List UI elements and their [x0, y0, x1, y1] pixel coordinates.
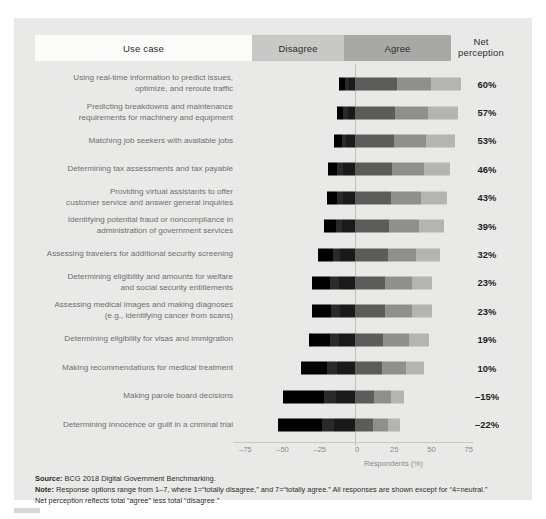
row-label-line: customer service and answer general inqu… — [66, 198, 233, 209]
bar-segment-agree — [355, 248, 388, 261]
bar-segment-agree — [385, 305, 412, 318]
bar-segment-disagree — [339, 276, 355, 289]
row-label-line: Determining eligibility for visas and im… — [64, 334, 233, 345]
row-label: Assessing travelers for additional secur… — [35, 240, 233, 268]
bar-segment-disagree — [331, 305, 340, 318]
bar-segment-agree — [424, 163, 451, 176]
stacked-bar — [318, 248, 440, 261]
row-label-line: Determining tax assessments and tax paya… — [67, 164, 233, 175]
net-perception-value: 19% — [463, 326, 511, 354]
stacked-bar — [312, 305, 433, 318]
bar-segment-disagree — [334, 418, 355, 431]
row-label: Predicting breakdowns and maintenancereq… — [35, 98, 233, 126]
chart-row: Using real-time information to predict i… — [35, 70, 511, 98]
header-disagree: Disagree — [252, 35, 344, 61]
bar-segment-agree — [416, 248, 440, 261]
x-axis-tick: –75 — [239, 445, 252, 454]
stacked-bar — [337, 106, 458, 119]
stacked-bar — [324, 220, 445, 233]
stacked-bar — [328, 163, 450, 176]
bar-segment-disagree — [348, 106, 355, 119]
row-label-line: Assessing medical images and making diag… — [54, 300, 233, 311]
bar-segment-agree — [409, 333, 430, 346]
bar-segment-agree — [388, 418, 400, 431]
row-label-line: Determining eligibility and amounts for … — [67, 272, 233, 283]
header-use-case-label: Use case — [123, 43, 164, 54]
bar-segment-agree — [431, 78, 461, 91]
row-label-line: and social security entitlements — [121, 283, 233, 294]
bar-segment-agree — [392, 163, 423, 176]
row-bar-area — [233, 297, 455, 325]
bar-segment-agree — [355, 106, 395, 119]
row-label-line: Using real-time information to predict i… — [73, 73, 233, 84]
bar-segment-agree — [428, 106, 458, 119]
bar-segment-agree — [355, 134, 394, 147]
net-perception-value: 23% — [463, 269, 511, 297]
x-axis-line — [233, 442, 473, 443]
header-use-case: Use case — [35, 35, 252, 61]
x-axis-tick: 75 — [465, 445, 473, 454]
stacked-bar — [283, 390, 404, 403]
bar-segment-disagree — [334, 134, 341, 147]
bar-segment-agree — [355, 362, 382, 375]
bar-segment-disagree — [330, 333, 339, 346]
source-label: Source: — [35, 474, 63, 483]
row-label-line: Providing virtual assistants to offer — [110, 187, 233, 198]
net-perception-value: –22% — [463, 411, 511, 439]
row-bar-area — [233, 382, 455, 410]
bar-segment-agree — [355, 78, 397, 91]
net-perception-value: 23% — [463, 297, 511, 325]
row-bar-area — [233, 269, 455, 297]
bar-segment-disagree — [327, 362, 337, 375]
row-label-line: Matching job seekers with available jobs — [89, 136, 233, 147]
row-label: Determining eligibility and amounts for … — [35, 269, 233, 297]
methodology-note: Note: Response options range from 1–7, w… — [35, 484, 535, 495]
bar-segment-agree — [374, 390, 390, 403]
chart-row: Matching job seekers with available jobs… — [35, 127, 511, 155]
bar-segment-agree — [391, 191, 421, 204]
bar-segment-disagree — [312, 276, 330, 289]
chart-row: Determining eligibility for visas and im… — [35, 326, 511, 354]
x-axis-title: Respondents (%) — [364, 459, 423, 468]
bar-segment-disagree — [322, 418, 334, 431]
bar-segment-agree — [385, 276, 412, 289]
row-label-line: requirements for machinery and equipment — [79, 113, 233, 124]
x-axis-tick: –50 — [276, 445, 289, 454]
row-bar-area — [233, 326, 455, 354]
row-label: Determining innocence or guilt in a crim… — [35, 411, 233, 439]
stacked-bar — [327, 191, 448, 204]
header-agree-label: Agree — [384, 43, 410, 54]
row-bar-area — [233, 212, 455, 240]
bar-segment-agree — [383, 333, 408, 346]
bar-segment-agree — [382, 362, 406, 375]
row-label-line: administration of government services — [97, 226, 233, 237]
bar-segment-agree — [395, 106, 428, 119]
bar-segment-disagree — [301, 362, 326, 375]
net-perception-value: 46% — [463, 155, 511, 183]
net-perception-note: Net perception reflects total “agree” le… — [35, 495, 535, 506]
header-agree: Agree — [344, 35, 451, 61]
bar-segment-disagree — [283, 390, 323, 403]
bar-segment-disagree — [337, 362, 355, 375]
bar-segment-disagree — [333, 248, 340, 261]
bar-segment-agree — [421, 191, 448, 204]
chart-row: Determining eligibility and amounts for … — [35, 269, 511, 297]
row-label-line: Determining innocence or guilt in a crim… — [63, 420, 233, 431]
bar-segment-disagree — [309, 333, 330, 346]
row-label: Assessing medical images and making diag… — [35, 297, 233, 325]
bar-segment-disagree — [278, 418, 323, 431]
stacked-bar — [301, 362, 423, 375]
stacked-bar — [309, 333, 430, 346]
bar-segment-disagree — [346, 134, 355, 147]
row-label: Making recommendations for medical treat… — [35, 354, 233, 382]
row-label: Determining eligibility for visas and im… — [35, 326, 233, 354]
bar-segment-agree — [373, 418, 388, 431]
bar-segment-agree — [397, 78, 431, 91]
bar-segment-agree — [406, 362, 424, 375]
net-perception-value: 43% — [463, 184, 511, 212]
header-net-perception: Net perception — [451, 35, 511, 61]
bar-segment-agree — [355, 191, 391, 204]
row-label: Determining tax assessments and tax paya… — [35, 155, 233, 183]
source-text: BCG 2018 Digital Government Benchmarking… — [63, 474, 216, 483]
bar-segment-disagree — [327, 191, 337, 204]
